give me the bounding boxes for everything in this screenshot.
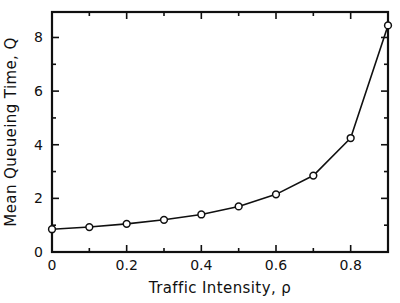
x-tick-label: 0.8 xyxy=(340,257,362,273)
data-point-marker xyxy=(347,135,354,142)
x-tick-label: 0 xyxy=(48,257,57,273)
queueing-time-line-chart: 00.20.40.60.8 02468 Traffic Intensity, ρ… xyxy=(0,0,400,303)
data-point-marker xyxy=(123,220,130,227)
data-point-marker xyxy=(235,203,242,210)
y-tick-label: 6 xyxy=(34,83,43,99)
data-point-marker xyxy=(385,22,392,29)
y-tick-label: 0 xyxy=(34,244,43,260)
x-tick-label: 0.4 xyxy=(190,257,212,273)
x-tick-label: 0.6 xyxy=(265,257,287,273)
data-point-marker xyxy=(310,172,317,179)
data-point-marker xyxy=(161,216,168,223)
y-tick-label: 4 xyxy=(34,137,43,153)
y-axis-title: Mean Queueing Time, Q xyxy=(2,37,20,226)
data-point-marker xyxy=(273,191,280,198)
x-tick-label: 0.2 xyxy=(116,257,138,273)
chart-figure: 00.20.40.60.8 02468 Traffic Intensity, ρ… xyxy=(0,0,400,303)
y-tick-label: 8 xyxy=(34,29,43,45)
data-point-marker xyxy=(86,224,93,231)
data-point-marker xyxy=(49,226,56,233)
x-axis-title: Traffic Intensity, ρ xyxy=(148,279,291,297)
y-tick-label: 2 xyxy=(34,190,43,206)
data-point-marker xyxy=(198,211,205,218)
